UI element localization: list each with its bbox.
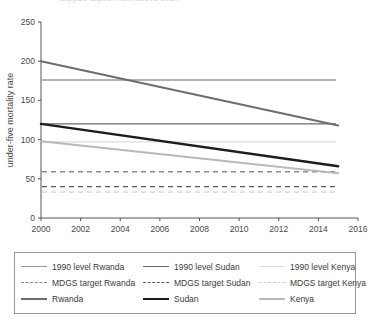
y-axis-title: under-five mortality rate	[5, 73, 15, 168]
y-tick-label: 150	[21, 95, 35, 105]
legend-item: 1990 level Rwanda	[21, 259, 143, 275]
clipped-caption-strip: clipped caption text above chart	[0, 0, 370, 9]
x-tick-label: 2006	[150, 224, 169, 234]
legend-label: 1990 level Sudan	[174, 263, 240, 272]
line-chart: under-five mortality rate050100150200250…	[0, 9, 370, 241]
legend-item: Rwanda	[21, 291, 143, 307]
y-tick-label: 250	[21, 17, 35, 27]
y-tick-label: 100	[21, 135, 35, 145]
x-tick-label: 2016	[349, 224, 368, 234]
x-tick-label: 2004	[111, 224, 130, 234]
legend-item: Kenya	[259, 291, 363, 307]
legend-item: 1990 level Kenya	[259, 259, 363, 275]
y-tick-label: 0	[30, 213, 35, 223]
chart-page: clipped caption text above chart under-f…	[0, 0, 370, 329]
legend-grid: 1990 level Rwanda1990 level Sudan1990 le…	[15, 259, 355, 307]
legend-label: MDGS target Sudan	[174, 279, 251, 288]
x-tick-label: 2008	[190, 224, 209, 234]
legend-label: MDGS target Rwanda	[52, 279, 135, 288]
x-tick-label: 2010	[230, 224, 249, 234]
legend-label: Sudan	[174, 295, 199, 304]
y-tick-label: 200	[21, 56, 35, 66]
legend-label: Rwanda	[52, 295, 83, 304]
legend-item: 1990 level Sudan	[143, 259, 259, 275]
legend-item: Sudan	[143, 291, 259, 307]
x-tick-label: 2002	[71, 224, 90, 234]
x-tick-label: 2014	[309, 224, 328, 234]
x-tick-label: 2000	[32, 224, 51, 234]
legend-label: MDGS target Kenya	[290, 279, 366, 288]
chart-area: under-five mortality rate050100150200250…	[0, 9, 370, 241]
series-line	[41, 61, 338, 125]
legend-item: MDGS target Sudan	[143, 275, 259, 291]
legend-label: Kenya	[290, 295, 314, 304]
legend-label: 1990 level Kenya	[290, 263, 355, 272]
chart-legend: 1990 level Rwanda1990 level Sudan1990 le…	[14, 252, 356, 314]
y-tick-label: 50	[26, 174, 36, 184]
x-tick-label: 2012	[269, 224, 288, 234]
legend-label: 1990 level Rwanda	[52, 263, 124, 272]
legend-item: MDGS target Kenya	[259, 275, 363, 291]
legend-item: MDGS target Rwanda	[21, 275, 143, 291]
clipped-caption-text: clipped caption text above chart	[60, 0, 179, 3]
